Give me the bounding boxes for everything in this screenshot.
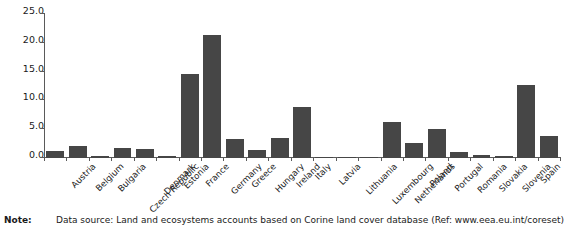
- note-text: Data source: Land and ecosystems account…: [56, 215, 564, 225]
- x-tick-mark: [403, 157, 404, 161]
- bar: [315, 157, 333, 158]
- x-axis-labels: AustriaBelgiumBulgariaCzech RepublicDenm…: [44, 162, 560, 214]
- bar-slot: [495, 13, 513, 158]
- x-tick-mark: [66, 157, 67, 161]
- bar: [540, 136, 558, 158]
- bar: [405, 143, 423, 158]
- x-tick-mark: [268, 157, 269, 161]
- bar-slot: [383, 13, 401, 158]
- x-tick-mark: [336, 157, 337, 161]
- x-tick-label: Latvia: [338, 162, 363, 187]
- x-tick-mark: [246, 157, 247, 161]
- bar-slot: [293, 13, 311, 158]
- bar-slot: [315, 13, 333, 158]
- bar-slot: [271, 13, 289, 158]
- x-tick-mark: [560, 157, 561, 161]
- bar: [136, 149, 154, 158]
- bar: [248, 150, 266, 158]
- bar-slot: [405, 13, 423, 158]
- x-tick-mark: [44, 157, 45, 161]
- x-tick-mark: [156, 157, 157, 161]
- bar-slot: [46, 13, 64, 158]
- bar-slot: [338, 13, 356, 158]
- x-tick-mark: [134, 157, 135, 161]
- bar: [473, 155, 491, 158]
- bar-slot: [181, 13, 199, 158]
- bar: [158, 156, 176, 158]
- bar: [226, 139, 244, 158]
- bar-slot: [158, 13, 176, 158]
- bar-slot: [226, 13, 244, 158]
- bar: [46, 151, 64, 158]
- bar-slot: [540, 13, 558, 158]
- x-tick-mark: [425, 157, 426, 161]
- bar-slot: [473, 13, 491, 158]
- bar: [428, 129, 446, 158]
- chart-note: Note:Data source: Land and ecosystems ac…: [4, 215, 564, 226]
- bar-slot: [428, 13, 446, 158]
- x-tick-mark: [111, 157, 112, 161]
- bar-slot: [203, 13, 221, 158]
- bar-slot: [69, 13, 87, 158]
- y-tick-label: 10.0: [23, 92, 44, 102]
- x-tick-mark: [358, 157, 359, 161]
- x-tick-mark: [291, 157, 292, 161]
- bar: [338, 157, 356, 158]
- bar: [181, 74, 199, 158]
- x-tick-mark: [381, 157, 382, 161]
- bars-layer: [44, 13, 560, 158]
- y-tick-label: 0.0: [29, 150, 44, 160]
- bar-slot: [114, 13, 132, 158]
- bar-slot: [136, 13, 154, 158]
- x-tick-mark: [493, 157, 494, 161]
- bar: [517, 85, 535, 158]
- bar-slot: [248, 13, 266, 158]
- bar: [360, 157, 378, 158]
- y-tick-label: 20.0: [23, 35, 44, 45]
- bar-slot: [450, 13, 468, 158]
- y-tick-label: 5.0: [29, 121, 44, 131]
- bar-chart: 0.05.010.015.020.025.0 AustriaBelgiumBul…: [0, 0, 564, 232]
- x-tick-mark: [515, 157, 516, 161]
- note-label: Note:: [4, 215, 56, 226]
- bar-slot: [360, 13, 378, 158]
- bar: [450, 152, 468, 158]
- bar-slot: [517, 13, 535, 158]
- x-tick-mark: [179, 157, 180, 161]
- bar: [114, 148, 132, 158]
- x-tick-mark: [470, 157, 471, 161]
- bar: [383, 122, 401, 158]
- bar: [495, 156, 513, 158]
- bar: [271, 138, 289, 158]
- x-tick-mark: [201, 157, 202, 161]
- bar: [203, 35, 221, 158]
- x-tick-mark: [538, 157, 539, 161]
- y-tick-label: 25.0: [23, 6, 44, 16]
- x-tick-label: Lithuania: [365, 162, 399, 196]
- y-tick-label: 15.0: [23, 64, 44, 74]
- bar-slot: [91, 13, 109, 158]
- bar: [293, 107, 311, 158]
- bar: [69, 146, 87, 158]
- bar: [91, 156, 109, 158]
